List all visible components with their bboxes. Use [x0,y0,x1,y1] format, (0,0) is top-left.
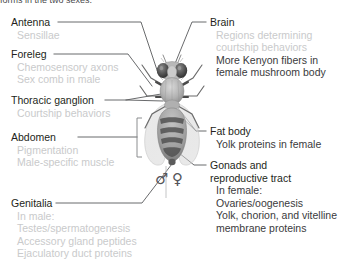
annotation-abdomen-heading: Abdomen [11,131,114,144]
annotation-abdomen-item-0: Pigmentation [11,144,114,157]
annotation-genitalia-item-2: Accessory gland peptides [11,235,137,248]
annotation-gonads-heading: Gonads and [210,159,337,172]
annotation-abdomen-item-1: Male-specific muscle [11,156,114,169]
annotation-brain-item-1: courtship behaviors [210,41,326,54]
annotation-genitalia-item-3: Ejaculatory duct proteins [11,247,137,260]
annotation-fat-body-heading: Fat body [210,125,321,138]
annotation-foreleg-item-0: Chemosensory axons [11,61,119,74]
annotation-foreleg-heading: Foreleg [11,48,119,61]
annotation-gonads-heading-2: reproductive tract [210,172,337,185]
annotation-brain-item-0: Regions determining [210,29,326,42]
annotation-antenna-item-0: Sensillae [11,29,60,42]
annotation-fat-body: Fat body Yolk proteins in female [210,125,321,150]
annotation-antenna: Antenna Sensillae [11,16,60,41]
annotation-brain-item-3: female mushroom body [210,66,326,79]
figure-caption-text: forms in the two sexes. [0,0,200,5]
annotation-thoracic-ganglion-heading: Thoracic ganglion [11,94,110,107]
annotation-gonads-item-0: In female: [210,184,337,197]
annotation-abdomen: Abdomen Pigmentation Male-specific muscl… [11,131,114,169]
female-symbol: ♀ [172,172,183,187]
annotation-foreleg: Foreleg Chemosensory axons Sex comb in m… [11,48,119,86]
figure-caption-clipped: forms in the two sexes. [0,0,200,5]
annotation-gonads-item-1: Ovaries/oogenesis [210,197,337,210]
annotation-antenna-heading: Antenna [11,16,60,29]
annotation-genitalia-item-0: In male: [11,210,137,223]
annotation-brain-heading: Brain [210,16,326,29]
annotation-gonads-item-2: Yolk, chorion, and vitelline [210,209,337,222]
figure-canvas: forms in the two sexes. [0,0,343,260]
annotation-genitalia-heading: Genitalia [11,197,137,210]
annotation-brain-item-2: More Kenyon fibers in [210,54,326,67]
annotation-brain: Brain Regions determining courtship beha… [210,16,326,79]
annotation-genitalia-item-1: Testes/spermatogenesis [11,222,137,235]
annotation-thoracic-ganglion: Thoracic ganglion Courtship behaviors [11,94,110,119]
annotation-foreleg-item-1: Sex comb in male [11,73,119,86]
annotation-genitalia: Genitalia In male: Testes/spermatogenesi… [11,197,137,260]
annotation-gonads-item-3: membrane proteins [210,222,337,235]
male-symbol: ♂ [155,172,168,187]
annotation-gonads: Gonads and reproductive tract In female:… [210,159,337,234]
drosophila-illustration [139,52,205,178]
annotation-thoracic-ganglion-item-0: Courtship behaviors [11,107,110,120]
annotation-fat-body-item-0: Yolk proteins in female [210,138,321,151]
